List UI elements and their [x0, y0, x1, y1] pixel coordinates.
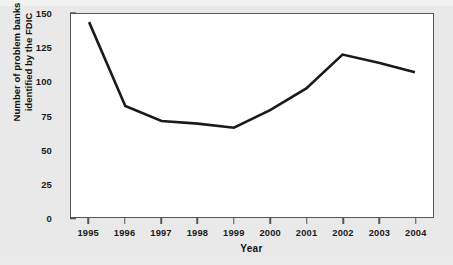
x-axis-tick-label: 2002	[332, 228, 353, 238]
x-axis-tick-label: 2001	[296, 228, 317, 238]
x-axis-tick-mark	[197, 218, 199, 224]
x-axis-tick-label: 1998	[187, 228, 208, 238]
x-axis-title-text: Year	[240, 243, 262, 254]
y-axis-tick-label: 75	[41, 110, 52, 121]
chart-figure: Number of problem banks identified by th…	[0, 0, 453, 265]
x-axis-title: Year	[0, 243, 453, 254]
plot-area	[70, 13, 434, 218]
y-axis-tick-label: 125	[36, 42, 52, 53]
x-axis-tick-mark	[233, 218, 235, 224]
x-axis-tick-mark	[160, 218, 162, 224]
page-top-margin	[0, 0, 453, 6]
x-axis-tick-mark	[269, 218, 271, 224]
x-axis-tick-label: 1995	[77, 228, 98, 238]
data-line-problem-banks	[89, 22, 415, 128]
y-axis-tick-label: 150	[36, 8, 52, 19]
y-axis-tick-label: 25	[41, 178, 52, 189]
x-axis-tick-mark	[342, 218, 344, 224]
y-axis-tick-label: 100	[36, 76, 52, 87]
x-axis-tick-mark	[306, 218, 308, 224]
x-axis-tick-mark	[379, 218, 381, 224]
x-axis-tick-label: 2004	[405, 228, 426, 238]
line-series-svg	[71, 14, 433, 217]
x-axis-tick-mark	[415, 218, 417, 224]
x-axis-tick-label: 1996	[114, 228, 135, 238]
y-axis-tick-label: 50	[41, 144, 52, 155]
x-axis-tick-label: 2000	[259, 228, 280, 238]
x-axis-tick-label: 1999	[223, 228, 244, 238]
y-axis-tick-label: 0	[47, 213, 52, 224]
x-axis-tick-label: 2003	[369, 228, 390, 238]
x-axis-tick-mark	[87, 218, 89, 224]
x-axis-tick-label: 1997	[150, 228, 171, 238]
y-axis-tick-labels: 0255075100125150	[0, 13, 62, 218]
x-axis-tick-mark	[124, 218, 126, 224]
page-bottom-margin	[0, 257, 453, 265]
